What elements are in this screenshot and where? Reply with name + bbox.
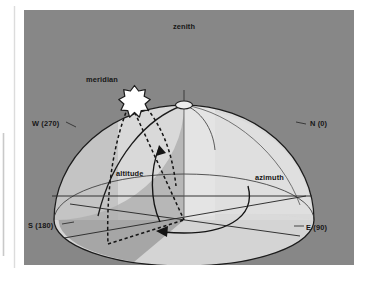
label-east: E (90) (306, 223, 327, 232)
diagram-figure: zenith meridian W (270) N (0) S (180) E … (0, 0, 368, 290)
label-meridian: meridian (86, 75, 118, 84)
label-west: W (270) (32, 119, 60, 128)
label-zenith: zenith (173, 22, 196, 31)
label-altitude: altitude (116, 169, 143, 178)
zenith-lit-band (184, 103, 215, 230)
label-north: N (0) (310, 119, 328, 128)
zenith-marker-icon (176, 101, 193, 109)
label-south: S (180) (28, 221, 54, 230)
celestial-sphere-svg: zenith meridian W (270) N (0) S (180) E … (0, 0, 368, 290)
label-azimuth: azimuth (255, 173, 284, 182)
